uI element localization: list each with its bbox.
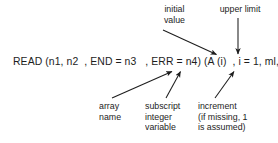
read-statement-code: READ (n1, n2 , END = n3 , ERR = n4) (A (… bbox=[13, 54, 278, 68]
callout-increment: increment (if missing, 1 is assumed) bbox=[198, 101, 268, 133]
initial-value-arrow bbox=[163, 30, 217, 55]
callout-array-name: array name bbox=[99, 101, 142, 122]
array-name-arrow bbox=[112, 72, 172, 99]
callout-initial-value: initial value bbox=[150, 4, 199, 25]
callout-upper-limit: upper limit bbox=[209, 4, 271, 15]
increment-arrow bbox=[215, 72, 234, 99]
callout-subscript-integer-variable: subscript integer variable bbox=[145, 101, 192, 133]
subscript-arrow bbox=[166, 72, 181, 99]
annotated-read-statement-figure: READ (n1, n2 , END = n3 , ERR = n4) (A (… bbox=[0, 0, 278, 143]
